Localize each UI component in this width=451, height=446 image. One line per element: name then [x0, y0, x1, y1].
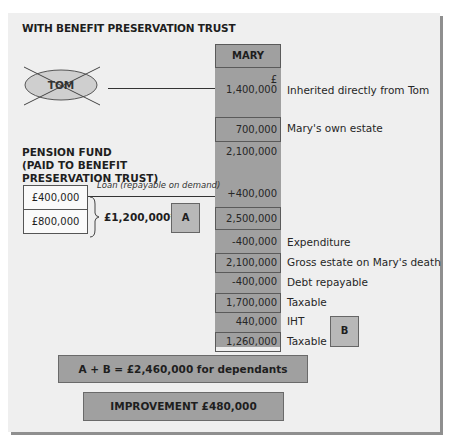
- mary-value: 1,400,000: [215, 84, 279, 95]
- brace-icon: [88, 196, 102, 238]
- row-label: Gross estate on Mary's death: [287, 256, 441, 268]
- diagram-title: WITH BENEFIT PRESERVATION TRUST: [22, 22, 235, 34]
- loan-label: Loan (repayable on demand): [97, 180, 220, 190]
- mary-value: +400,000: [215, 188, 279, 199]
- row-label: Taxable: [287, 296, 327, 308]
- pension-total: £1,200,000*: [104, 211, 176, 223]
- mary-value: 2,100,000: [215, 253, 281, 273]
- mary-value: 700,000: [215, 117, 281, 142]
- row-label: Mary's own estate: [287, 122, 383, 134]
- mary-header: MARY: [215, 44, 281, 68]
- row-label: Debt repayable: [287, 276, 368, 288]
- inheritance-line: [108, 88, 215, 89]
- tom-label: TOM: [41, 79, 81, 91]
- row-label: Inherited directly from Tom: [287, 84, 429, 96]
- mary-value: 440,000: [215, 316, 279, 327]
- tag-b: B: [330, 316, 359, 347]
- pension-heading-line: (PAID TO BENEFIT: [22, 159, 158, 172]
- row-label: Expenditure: [287, 236, 351, 248]
- pension-box-400k: £400,000: [23, 185, 88, 210]
- mary-value: 2,500,000: [215, 207, 281, 230]
- pension-heading-line: PENSION FUND: [22, 146, 158, 159]
- row-label: Taxable: [287, 335, 327, 347]
- mary-column: MARY £ 1,400,000 700,000 2,100,000 +400,…: [215, 44, 281, 347]
- pension-box-800k: £800,000: [23, 209, 88, 234]
- improvement-bar: IMPROVEMENT £480,000: [83, 392, 284, 421]
- mary-value: 1,700,000: [215, 293, 281, 313]
- mary-value: 2,100,000: [215, 146, 279, 157]
- mary-value: 1,260,000: [215, 332, 281, 352]
- mary-value: -400,000: [215, 236, 279, 247]
- mary-value: -400,000: [215, 276, 279, 287]
- summary-bar: A + B = £2,460,000 for dependants: [58, 355, 308, 383]
- tag-a: A: [171, 203, 200, 233]
- loan-line: [88, 196, 215, 197]
- row-label: IHT: [287, 315, 304, 327]
